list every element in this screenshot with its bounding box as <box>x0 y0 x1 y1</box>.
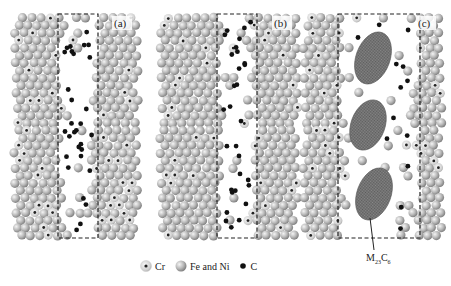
figure: (a)(b)(c) M23C6 Cr Fe and Ni C <box>0 0 451 286</box>
carbide-ellipse <box>349 163 399 225</box>
atomic-structure-figure: (a)(b)(c) <box>0 0 451 250</box>
legend-item-c: C <box>239 261 257 272</box>
c-text: C <box>381 252 388 263</box>
panel-label-a: (a) <box>114 17 127 30</box>
carbide-precipitates <box>343 27 399 225</box>
carbide-callout-line <box>370 218 374 250</box>
legend-label-cr: Cr <box>155 261 165 272</box>
legend-label-fe-ni: Fe and Ni <box>190 261 229 272</box>
fe-ni-atom-icon <box>175 260 187 272</box>
panel-label-b: (b) <box>274 17 287 30</box>
legend-item-fe-ni: Fe and Ni <box>175 260 229 272</box>
cr-atom-icon <box>140 260 152 272</box>
panel-label-c: (c) <box>418 17 431 30</box>
carbide-ellipse <box>348 27 398 89</box>
legend-item-cr: Cr <box>140 260 165 272</box>
legend: Cr Fe and Ni C <box>140 258 257 274</box>
carbide-callout-label: M23C6 <box>366 252 391 265</box>
legend-label-c: C <box>250 261 257 272</box>
m-text: M <box>366 252 375 263</box>
sub-6: 6 <box>388 259 391 265</box>
carbon-atom-icon <box>239 262 247 270</box>
